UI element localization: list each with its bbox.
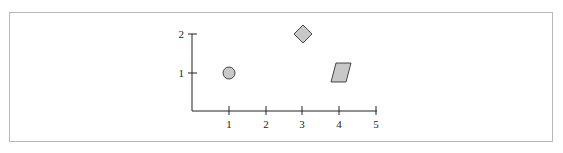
y-tick-label-1: 1 (179, 67, 185, 79)
x-tick-label-5: 5 (373, 118, 379, 130)
x-tick-label-4: 4 (336, 118, 342, 130)
x-tick-label-3: 3 (299, 118, 305, 130)
circle-marker (223, 67, 235, 79)
y-tick-label-2: 2 (179, 28, 185, 40)
parallelogram-marker (331, 63, 351, 82)
x-tick-label-1: 1 (226, 118, 232, 130)
scatter-plot: 2 1 1 2 3 4 5 (0, 0, 563, 153)
diamond-marker (294, 25, 312, 43)
x-tick-label-2: 2 (263, 118, 269, 130)
